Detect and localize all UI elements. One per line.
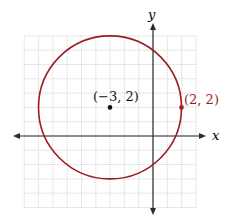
- y-axis-up-arrow-icon: [150, 23, 156, 30]
- grid: [24, 36, 196, 208]
- center-point-label: (−3, 2): [93, 89, 139, 104]
- center-point: [108, 105, 113, 110]
- tangent-point-label: (2, 2): [184, 92, 219, 107]
- x-axis-label: x: [212, 128, 220, 143]
- y-axis-label: y: [147, 7, 156, 22]
- x-axis-right-arrow-icon: [199, 133, 206, 139]
- y-axis-down-arrow-icon: [150, 208, 156, 215]
- x-axis-left-arrow-icon: [13, 133, 20, 139]
- coordinate-plane: x y (−3, 2) (2, 2): [0, 0, 227, 224]
